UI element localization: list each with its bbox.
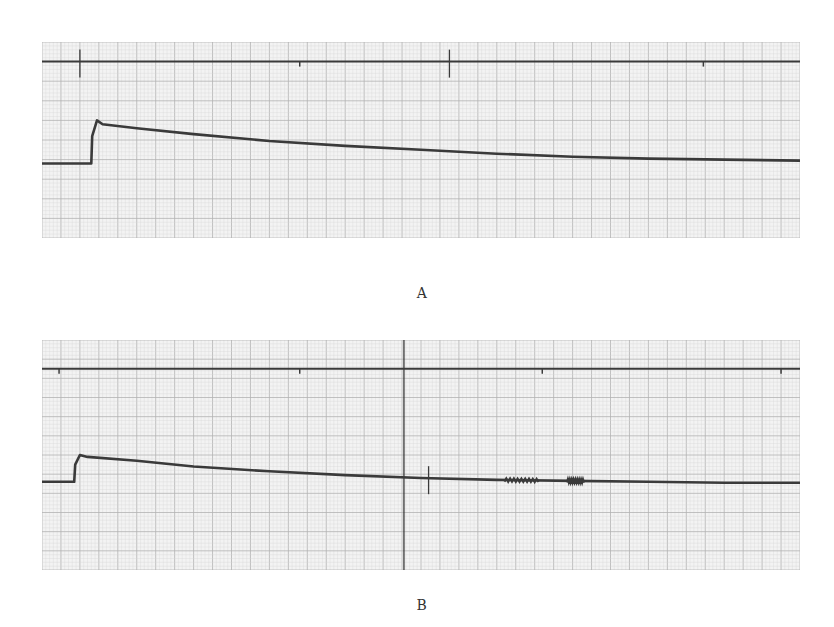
chart-panel-a — [42, 42, 800, 238]
chart-b-svg — [42, 340, 800, 570]
chart-panel-b — [42, 340, 800, 570]
panel-label-b: B — [402, 597, 442, 613]
panel-label-a: A — [402, 285, 442, 301]
chart-a-svg — [42, 42, 800, 238]
signal-noise-burst — [567, 479, 584, 482]
